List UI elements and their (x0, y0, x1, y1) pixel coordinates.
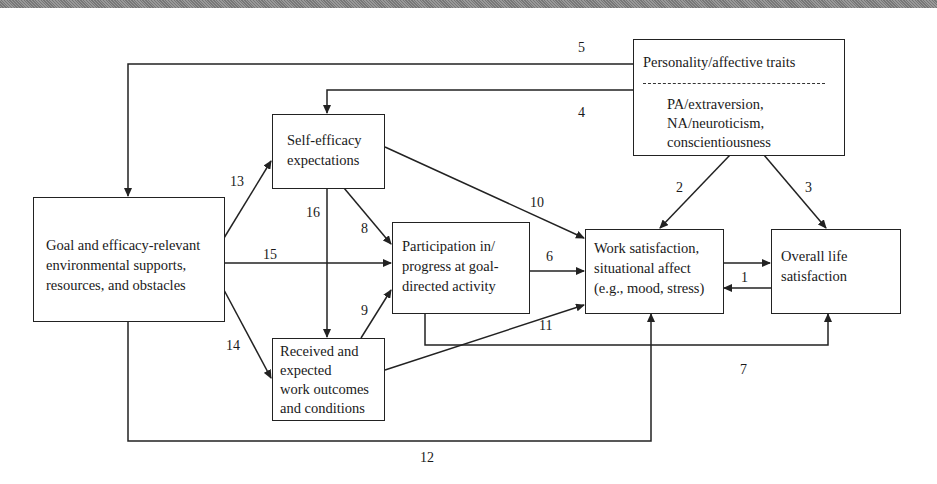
path-3-arrow (764, 155, 826, 228)
path-label-3: 3 (805, 181, 812, 195)
personality-divider (643, 83, 825, 84)
participation-line-3: directed activity (402, 277, 496, 296)
life-satisfaction-line-1: Overall life (781, 247, 847, 266)
path-label-12: 12 (420, 451, 434, 465)
path-12-arrow (128, 314, 651, 441)
node-goal-supports: Goal and efficacy-relevant environmental… (33, 197, 225, 322)
received-line-2: expected (280, 361, 332, 380)
personality-line-1: PA/extraversion, (667, 95, 764, 114)
path-label-1: 1 (741, 271, 748, 285)
node-work-satisfaction: Work satisfaction, situational affect (e… (585, 229, 724, 314)
path-2-arrow (660, 155, 730, 228)
received-line-4: and conditions (280, 399, 365, 418)
goal-line-3: resources, and obstacles (46, 276, 186, 295)
node-personality-traits: Personality/affective traits PA/extraver… (633, 39, 845, 156)
path-7-arrow (425, 313, 828, 345)
participation-line-2: progress at goal- (402, 257, 499, 276)
node-received-outcomes: Received and expected work outcomes and … (272, 338, 385, 421)
path-label-8: 8 (361, 222, 368, 236)
path-label-13: 13 (230, 175, 244, 189)
path-label-6: 6 (546, 250, 553, 264)
personality-title: Personality/affective traits (643, 53, 795, 72)
participation-line-1: Participation in/ (402, 237, 495, 256)
path-14-arrow (224, 290, 271, 378)
work-satisfaction-line-2: situational affect (594, 259, 691, 278)
goal-line-1: Goal and efficacy-relevant (46, 236, 200, 255)
work-satisfaction-line-1: Work satisfaction, (594, 239, 699, 258)
path-label-14: 14 (226, 339, 240, 353)
self-efficacy-line-2: expectations (287, 151, 359, 170)
path-11-arrow (385, 305, 584, 370)
personality-line-2: NA/neuroticism, (667, 114, 764, 133)
node-life-satisfaction: Overall life satisfaction (771, 229, 901, 314)
path-4-arrow (327, 90, 633, 113)
path-13-arrow (224, 161, 271, 238)
path-label-7: 7 (740, 363, 747, 377)
self-efficacy-line-1: Self-efficacy (287, 131, 362, 150)
personality-line-3: conscientiousness (667, 133, 771, 152)
goal-line-2: environmental supports, (46, 256, 186, 275)
node-self-efficacy: Self-efficacy expectations (272, 114, 385, 189)
path-label-11: 11 (539, 319, 552, 333)
node-participation: Participation in/ progress at goal- dire… (392, 222, 530, 314)
path-label-2: 2 (676, 181, 683, 195)
path-label-9: 9 (361, 304, 368, 318)
path-label-5: 5 (578, 41, 585, 55)
path-label-15: 15 (263, 248, 277, 262)
path-label-10: 10 (530, 196, 544, 210)
life-satisfaction-line-2: satisfaction (781, 267, 847, 286)
path-label-16: 16 (306, 206, 320, 220)
path-label-4: 4 (578, 106, 585, 120)
work-satisfaction-line-3: (e.g., mood, stress) (594, 279, 704, 298)
received-line-1: Received and (280, 342, 359, 361)
received-line-3: work outcomes (280, 380, 369, 399)
